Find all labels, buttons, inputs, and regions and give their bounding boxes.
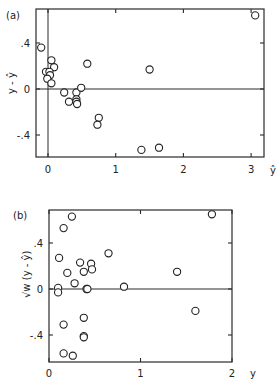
data-point [80,334,87,341]
data-point [84,285,91,292]
data-point [138,146,145,153]
x-tick-label: 0 [45,164,51,175]
data-point [174,268,181,275]
data-point [55,289,62,296]
data-point [48,80,55,87]
y-tick-label: .4 [20,38,30,49]
data-point [192,307,199,314]
panel-b-xlabel: y [250,368,256,379]
x-tick-label: 0 [46,368,52,379]
data-point [78,84,85,91]
data-point [60,350,67,357]
data-point [69,352,76,359]
residual-plots-figure: 0123.40-.4 (a) ŷ y - ŷ 012.40-.4 (b) y √… [0,0,279,382]
data-point [120,283,127,290]
data-point [105,250,112,257]
data-point [146,66,153,73]
data-point [60,225,67,232]
data-point [60,321,67,328]
data-point [38,44,45,51]
data-point [155,144,162,151]
data-point [77,259,84,266]
data-point [65,98,72,105]
panel-b-ylabel: √w (y - ŷ) [21,251,32,298]
y-tick-label: 0 [24,84,30,95]
data-point [252,12,259,19]
data-point [80,314,87,321]
data-point [94,121,101,128]
panel-b-weighted-residuals: 012.40-.4 (b) y √w (y - ŷ) [13,210,256,379]
y-tick-label: .4 [33,238,43,249]
panel-a-points [38,12,259,154]
data-point [88,266,95,273]
panel-a-label: (a) [6,10,20,21]
data-point [208,211,215,218]
data-point [68,213,75,220]
panel-a-frame [36,9,264,157]
y-tick-label: -.4 [17,130,30,141]
data-point [95,114,102,121]
y-tick-label: 0 [37,284,43,295]
data-point [84,60,91,67]
data-point [61,89,68,96]
y-tick-label: -.4 [30,330,43,341]
data-point [71,280,78,287]
data-point [80,268,87,275]
x-tick-label: 2 [180,164,186,175]
data-point [48,57,55,64]
x-tick-label: 1 [113,164,119,175]
data-point [64,269,71,276]
x-tick-label: 2 [229,368,235,379]
panel-a-ylabel: y - ŷ [6,72,17,94]
x-tick-label: 3 [248,164,254,175]
data-point [74,100,81,107]
panel-b-label: (b) [13,210,27,221]
x-tick-label: 1 [137,368,143,379]
panel-b-points [55,211,216,360]
panel-a-xlabel: ŷ [270,165,276,176]
panel-a-residuals-vs-fitted: 0123.40-.4 (a) ŷ y - ŷ [6,9,276,176]
data-point [56,254,63,261]
